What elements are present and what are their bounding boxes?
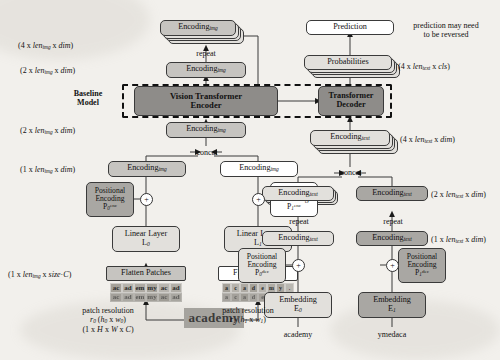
decoder-input-text-0: academy <box>268 330 328 339</box>
add-operator-enc-1: + <box>252 193 265 206</box>
patch-cell: a <box>222 283 231 293</box>
patch-cell: ad <box>170 293 182 303</box>
repeat-label-img: repeat <box>186 49 226 58</box>
patch-resolution-0-label: patch resolution r0 (h0 x w0) (1 x H x W… <box>48 306 168 334</box>
patch-cell: my <box>146 293 158 303</box>
patch-cell: my <box>146 283 158 293</box>
encoding-img-branch0[interactable]: Encodingimg <box>108 161 186 177</box>
patch-cell: a <box>240 293 249 303</box>
encoding-text-branch0-2x[interactable]: Encodingtext <box>262 186 334 201</box>
patch-grid-r0: academmyacadacademmyacad <box>110 283 182 302</box>
patch-cell: em <box>134 283 146 293</box>
dim-1-len-img-dim: (1 x lenimg x dim) <box>20 165 75 175</box>
prediction-box[interactable]: Prediction <box>306 20 394 35</box>
encoding-text-1x-branch1[interactable]: Encodingtext <box>356 231 428 246</box>
baseline-model-label: Baseline Model <box>58 89 118 108</box>
patch-cell: c <box>231 283 240 293</box>
decoder-input-text-1: ymedaca <box>362 330 422 339</box>
linear-layer-l0[interactable]: Linear Layer L0 <box>112 226 180 252</box>
add-operator-enc-0: + <box>140 193 153 206</box>
dim-2-len-img-dim-bottom: (2 x lenimg x dim) <box>20 126 75 136</box>
transformer-decoder-block[interactable]: Transformer Decoder <box>318 86 384 116</box>
positional-encoding-p0-dec[interactable]: Positional Encoding P0dec <box>238 248 286 283</box>
patch-cell: a <box>222 293 231 303</box>
vision-transformer-encoder-block[interactable]: Vision Transformer Encoder <box>134 86 278 116</box>
encoding-img-post-encoder[interactable]: Encodingimg <box>166 122 246 138</box>
dim-2-len-text-dim: (2 x lentext x dim) <box>431 190 486 200</box>
patch-cell: ac <box>110 283 122 293</box>
prediction-note: prediction may need to be reversed <box>396 21 496 40</box>
dim-4-len-text-cls: (4 x lentext x cls) <box>398 62 450 72</box>
patch-cell: ac <box>158 283 170 293</box>
add-operator-dec-1: + <box>386 259 399 272</box>
patch-cell: c <box>231 293 240 303</box>
patch-cell: ac <box>110 293 122 303</box>
patch-cell: ac <box>158 293 170 303</box>
encoding-img-pre-encoder[interactable]: Encodingimg <box>166 62 246 78</box>
dim-2-len-img-dim-top: (2 x lenimg x dim) <box>20 66 75 76</box>
encoding-img-repeated-4x[interactable]: Encodingimg <box>160 20 236 36</box>
embedding-e1[interactable]: Embedding E1 <box>358 292 426 318</box>
patch-cell: em <box>134 293 146 303</box>
repeat-label-text-0: repeat <box>282 217 316 226</box>
dim-1-len-img-sizeC: (1 x lenimg x size·C) <box>8 270 71 280</box>
encoding-text-1x-branch0[interactable]: Encodingtext <box>262 231 334 246</box>
input-dims-label: (1 x H x W x C) <box>48 325 168 334</box>
patch-resolution-1-label: patch resolution r1 (h1 x w1) <box>196 306 300 325</box>
dim-4-len-text-dim: (4 x lentext x dim) <box>400 135 455 145</box>
positional-encoding-p1-dec[interactable]: Positional Encoding P1dec <box>398 248 446 283</box>
positional-encoding-p0-enc[interactable]: Positional Encoding P0enc <box>86 182 134 217</box>
concat-label-img: concat <box>190 148 224 157</box>
patch-cell: ad <box>122 293 134 303</box>
probabilities-box[interactable]: Probabilities <box>304 55 392 70</box>
flatten-patches-0[interactable]: Flatten Patches <box>106 266 186 281</box>
dim-1-len-text-dim: (1 x lentext x dim) <box>431 235 486 245</box>
patch-cell: ad <box>122 283 134 293</box>
patch-cell: d <box>249 283 258 293</box>
encoding-text-branch1-2x[interactable]: Encodingtext <box>356 186 428 201</box>
patch-cell: ad <box>170 283 182 293</box>
decoder-label-2: Decoder <box>336 101 365 110</box>
encoding-text-4x[interactable]: Encodingtext <box>310 130 390 146</box>
patch-cell: e <box>258 283 267 293</box>
concat-label-text: concat <box>334 168 368 177</box>
repeat-label-text-1: repeat <box>376 217 410 226</box>
add-operator-dec-0: + <box>292 259 305 272</box>
dim-4-len-img-dim: (4 x lenimg x dim) <box>18 41 73 51</box>
vit-encoder-label-2: Encoder <box>190 101 221 110</box>
patch-cell: a <box>240 283 249 293</box>
patch-cell: d <box>249 293 258 303</box>
encoding-img-branch1[interactable]: Encodingimg <box>220 161 298 177</box>
